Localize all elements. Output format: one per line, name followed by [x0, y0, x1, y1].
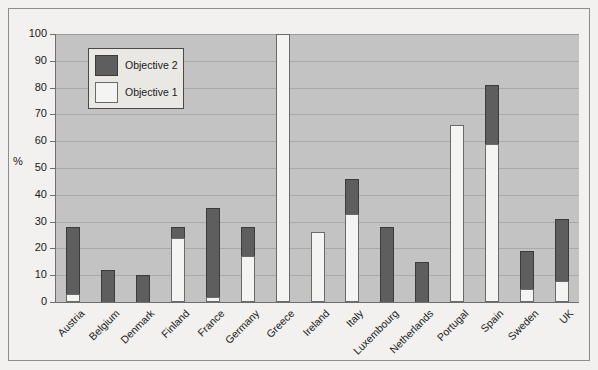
legend-swatch-objective-1 — [95, 82, 118, 103]
bar-segment-objective-2 — [415, 262, 429, 302]
y-tick-label: 90 — [8, 54, 47, 66]
bar-segment-objective-1 — [171, 238, 185, 302]
y-tick-mark — [50, 195, 55, 196]
bar-netherlands — [415, 34, 429, 302]
y-tick-mark — [50, 141, 55, 142]
y-tick-label: 80 — [8, 81, 47, 93]
bar-portugal — [450, 34, 464, 302]
bar-ireland — [311, 34, 325, 302]
y-tick-mark — [50, 88, 55, 89]
bar-segment-objective-1 — [485, 144, 499, 302]
bar-germany — [241, 34, 255, 302]
bar-segment-objective-1 — [450, 125, 464, 302]
bar-segment-objective-1 — [520, 289, 534, 302]
y-tick-mark — [50, 61, 55, 62]
y-tick-mark — [50, 114, 55, 115]
y-tick-mark — [50, 248, 55, 249]
bar-uk — [555, 34, 569, 302]
bar-france — [206, 34, 220, 302]
bar-austria — [66, 34, 80, 302]
bar-italy — [345, 34, 359, 302]
bar-spain — [485, 34, 499, 302]
bar-segment-objective-1 — [241, 256, 255, 302]
legend-label-objective-1: Objective 1 — [125, 86, 178, 98]
chart-legend: Objective 2 Objective 1 — [88, 48, 184, 109]
bar-segment-objective-1 — [206, 297, 220, 302]
y-tick-mark — [50, 222, 55, 223]
y-tick-mark — [50, 168, 55, 169]
bar-segment-objective-1 — [311, 232, 325, 302]
y-tick-label: 100 — [8, 27, 47, 39]
bar-greece — [276, 34, 290, 302]
bar-segment-objective-2 — [101, 270, 115, 302]
bar-segment-objective-2 — [66, 227, 80, 302]
bar-segment-objective-1 — [345, 214, 359, 302]
bar-segment-objective-2 — [380, 227, 394, 302]
y-tick-label: 10 — [8, 268, 47, 280]
y-tick-mark — [50, 275, 55, 276]
y-tick-mark — [50, 34, 55, 35]
legend-swatch-objective-2 — [95, 55, 118, 76]
chart-figure: % 0102030405060708090100 AustriaBelgiumD… — [0, 0, 598, 370]
bar-luxembourg — [380, 34, 394, 302]
y-tick-label: 60 — [8, 134, 47, 146]
y-tick-label: 20 — [8, 241, 47, 253]
y-tick-mark — [50, 302, 55, 303]
bar-segment-objective-2 — [206, 208, 220, 302]
y-tick-label: 70 — [8, 107, 47, 119]
y-tick-label: 50 — [8, 161, 47, 173]
bar-segment-objective-1 — [276, 34, 290, 302]
y-tick-label: 30 — [8, 215, 47, 227]
bar-sweden — [520, 34, 534, 302]
y-tick-label: 0 — [8, 295, 47, 307]
bar-segment-objective-2 — [136, 275, 150, 302]
bar-segment-objective-1 — [555, 281, 569, 302]
bar-segment-objective-1 — [66, 294, 80, 302]
y-tick-label: 40 — [8, 188, 47, 200]
legend-label-objective-2: Objective 2 — [125, 59, 178, 71]
